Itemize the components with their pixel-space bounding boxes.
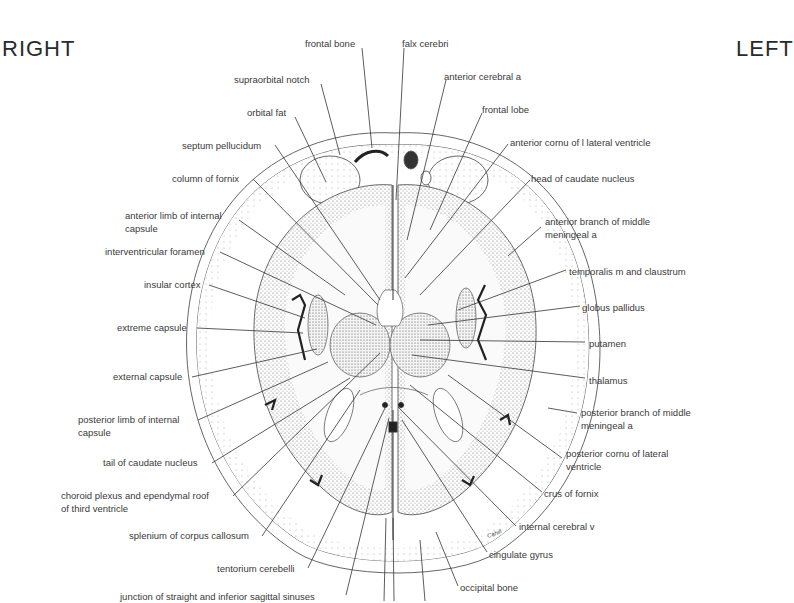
label-thalamus: thalamus (589, 374, 628, 387)
label-extreme-capsule: extreme capsule (117, 321, 187, 334)
label-line-2: meningeal a (581, 419, 691, 432)
label-head-of-caudate-nucleus: head of caudate nucleus (531, 172, 635, 185)
label-line-1: anterior limb of internal (125, 209, 222, 222)
label-posterior-branch-middle-meningeal: posterior branch of middle meningeal a (581, 406, 691, 432)
orbits (300, 151, 488, 204)
label-posterior-cornu-lateral-ventricle: posterior cornu of lateral ventricle (566, 447, 668, 473)
label-line-1: choroid plexus and ependymal roof (61, 489, 209, 502)
label-insular-cortex: insular cortex (144, 278, 201, 291)
label-line-2: meningeal a (545, 228, 650, 241)
label-anterior-cornu-lateral-ventricle: anterior cornu of l lateral ventricle (510, 136, 650, 149)
label-tentorium-cerebelli: tentorium cerebelli (217, 562, 295, 575)
label-line-1: anterior branch of middle (545, 215, 650, 228)
label-column-of-fornix: column of fornix (172, 172, 239, 185)
label-frontal-lobe: frontal lobe (482, 103, 529, 116)
label-anterior-branch-middle-meningeal: anterior branch of middle meningeal a (545, 215, 650, 241)
label-occipital-bone: occipital bone (460, 581, 518, 594)
label-line-1: posterior cornu of lateral (566, 447, 668, 460)
label-globus-pallidus: globus pallidus (582, 301, 645, 314)
label-tail-of-caudate-nucleus: tail of caudate nucleus (103, 456, 198, 469)
label-falx-cerebri: falx cerebri (402, 37, 448, 50)
label-external-capsule: external capsule (113, 370, 182, 383)
label-supraorbital-notch: supraorbital notch (234, 73, 310, 86)
label-crus-of-fornix: crus of fornix (544, 487, 598, 500)
label-orbital-fat: orbital fat (247, 106, 286, 119)
label-choroid-plexus: choroid plexus and ependymal roof of thi… (61, 489, 209, 515)
label-line-2: ventricle (566, 460, 668, 473)
label-posterior-limb-internal-capsule: posterior limb of internal capsule (78, 413, 179, 439)
label-putamen: putamen (589, 337, 626, 350)
label-interventricular-foramen: interventricular foramen (105, 245, 205, 258)
label-temporalis-m-claustrum: temporalis m and claustrum (569, 265, 686, 278)
label-line-2: capsule (78, 426, 179, 439)
label-splenium-corpus-callosum: splenium of corpus callosum (129, 529, 249, 542)
label-septum-pellucidum: septum pellucidum (182, 139, 261, 152)
label-line-2: capsule (125, 222, 222, 235)
label-anterior-limb-internal-capsule: anterior limb of internal capsule (125, 209, 222, 235)
label-anterior-cerebral-a: anterior cerebral a (444, 70, 521, 83)
label-line-2: of third ventricle (61, 502, 209, 515)
label-junction-sinuses: junction of straight and inferior sagitt… (120, 590, 315, 603)
label-line-1: posterior branch of middle (581, 406, 691, 419)
label-cingulate-gyrus: cingulate gyrus (489, 548, 553, 561)
label-frontal-bone: frontal bone (305, 37, 355, 50)
label-internal-cerebral-v: internal cerebral v (519, 520, 595, 533)
label-line-1: posterior limb of internal (78, 413, 179, 426)
